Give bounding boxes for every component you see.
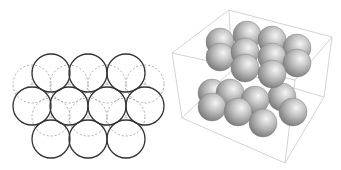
sphere: [279, 98, 307, 126]
sphere: [283, 49, 311, 77]
sphere-packing-3d-view: [170, 0, 341, 170]
box-edge: [172, 53, 182, 118]
solid-circle: [107, 120, 145, 158]
sphere: [231, 54, 259, 82]
solid-circle: [126, 87, 164, 125]
sphere: [198, 93, 226, 121]
sphere: [224, 98, 252, 126]
sphere-packing-svg: [170, 0, 341, 170]
solid-circle: [69, 120, 107, 158]
solid-circle: [32, 54, 70, 92]
solid-circle: [32, 120, 70, 158]
sphere: [206, 43, 234, 71]
circle-packing-diagram: [0, 0, 170, 170]
box-edge: [324, 37, 332, 97]
circle-packing-svg: [0, 0, 170, 170]
sphere: [258, 60, 286, 88]
sphere: [249, 109, 277, 137]
